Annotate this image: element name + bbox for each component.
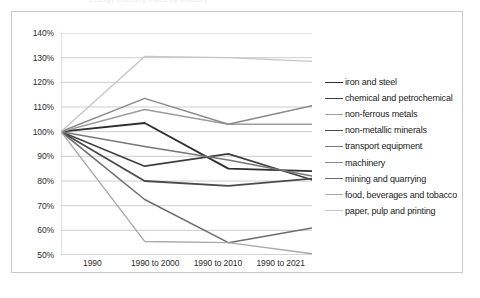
legend-line-swatch — [325, 210, 343, 211]
y-axis-tick: 140% — [33, 28, 54, 38]
series-line — [61, 132, 312, 254]
line-chart-svg — [61, 33, 312, 255]
y-axis-tick: 130% — [33, 53, 54, 63]
y-axis-tick: 70% — [37, 201, 54, 211]
legend-label: transport equipment — [345, 141, 422, 151]
legend-line-swatch — [325, 194, 343, 195]
legend-line-swatch — [325, 82, 343, 83]
y-axis-tick: 60% — [37, 225, 54, 235]
legend-label: iron and steel — [345, 77, 397, 87]
x-axis-tick: 1990 to 2021 — [256, 258, 304, 268]
legend-label: non-ferrous metals — [345, 109, 417, 119]
y-axis-tick: 100% — [33, 127, 54, 137]
clipped-title-remnant: Energy intensity index by industry — [90, 0, 260, 5]
chart-frame: 50%60%70%80%90%100%110%120%130%140% 1990… — [11, 11, 463, 273]
y-axis-tick: 90% — [37, 151, 54, 161]
legend-label: chemical and petrochemical — [345, 93, 453, 103]
chart-figure: Energy intensity index by industry 50%60… — [0, 0, 480, 298]
legend-item[interactable]: iron and steel — [325, 74, 463, 90]
legend-label: mining and quarrying — [345, 174, 426, 184]
y-axis-tick: 80% — [37, 176, 54, 186]
legend-line-swatch — [325, 146, 343, 147]
legend-item[interactable]: food, beverages and tobacco — [325, 187, 463, 203]
legend-item[interactable]: mining and quarrying — [325, 171, 463, 187]
y-axis-tick: 110% — [33, 102, 54, 112]
y-axis-tick: 120% — [33, 77, 54, 87]
legend-line-swatch — [325, 162, 343, 163]
legend-item[interactable]: transport equipment — [325, 138, 463, 154]
x-axis-tick-labels: 19901990 to 20001990 to 20101990 to 2021 — [61, 258, 312, 274]
legend-item[interactable]: machinery — [325, 154, 463, 170]
series-line — [61, 132, 312, 243]
x-axis-tick: 1990 to 2000 — [131, 258, 179, 268]
series-line — [61, 98, 312, 131]
plot-area — [61, 33, 312, 255]
legend-item[interactable]: chemical and petrochemical — [325, 90, 463, 106]
plot-region: 50%60%70%80%90%100%110%120%130%140% 1990… — [12, 12, 322, 274]
legend-label: paper, pulp and printing — [345, 206, 435, 216]
legend-label: non-metallic minerals — [345, 125, 427, 135]
legend-item[interactable]: non-metallic minerals — [325, 122, 463, 138]
y-axis-tick-labels: 50%60%70%80%90%100%110%120%130%140% — [12, 12, 58, 274]
legend-item[interactable]: non-ferrous metals — [325, 106, 463, 122]
x-axis-tick: 1990 to 2010 — [194, 258, 242, 268]
series-line — [61, 56, 312, 131]
legend-line-swatch — [325, 98, 343, 99]
legend-item[interactable]: paper, pulp and printing — [325, 203, 463, 219]
legend-line-swatch — [325, 130, 343, 131]
legend-line-swatch — [325, 178, 343, 179]
legend-label: food, beverages and tobacco — [345, 190, 457, 200]
chart-legend: iron and steelchemical and petrochemical… — [325, 74, 463, 234]
legend-label: machinery — [345, 158, 385, 168]
legend-line-swatch — [325, 114, 343, 115]
x-axis-tick: 1990 — [83, 258, 102, 268]
series-line — [61, 132, 312, 186]
y-axis-tick: 50% — [37, 250, 54, 260]
